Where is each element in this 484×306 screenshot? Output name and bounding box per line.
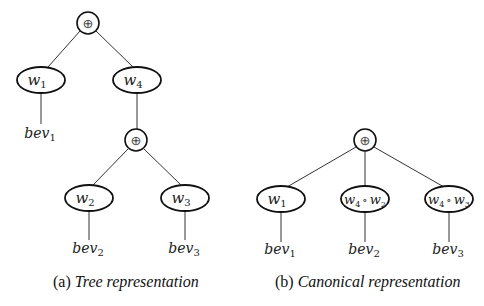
compose-icon: ∘ <box>362 194 367 207</box>
oplus-root-node: ⊕ <box>77 12 99 34</box>
edge-root-w1 <box>287 147 356 187</box>
canonical-representation: ⊕ w1 w4∘w2 w4∘w3 bev1 bev2 bev3 <box>257 129 473 259</box>
oplus-icon: ⊕ <box>360 133 371 148</box>
weight-node-w1: w1 <box>17 67 65 93</box>
weight-node-w4-compose-w3: w4∘w3 <box>425 186 473 212</box>
caption-a: (a) Tree representation <box>53 273 199 291</box>
leaf-bev1: bev1 <box>264 241 296 259</box>
leaf-bev2: bev2 <box>72 240 104 258</box>
edge-root-w4 <box>96 31 133 67</box>
edge-root-w4w3 <box>374 147 444 187</box>
leaf-bev3: bev3 <box>432 241 464 259</box>
edge-oplus-w3 <box>144 149 181 185</box>
compose-icon: ∘ <box>446 194 451 207</box>
oplus-inner-node: ⊕ <box>125 129 147 151</box>
svg-text:w4∘w2: w4∘w2 <box>344 192 386 209</box>
oplus-icon: ⊕ <box>83 16 94 31</box>
weight-node-w4: w4 <box>113 67 161 93</box>
leaf-bev2: bev2 <box>348 241 380 259</box>
weight-node-w2: w2 <box>65 185 113 211</box>
diagram-canvas: ⊕ w1 w4 bev1 ⊕ w2 w3 bev2 <box>0 0 484 306</box>
leaf-bev1: bev1 <box>24 125 56 143</box>
caption-a-text: Tree representation <box>75 273 199 290</box>
oplus-icon: ⊕ <box>131 133 142 148</box>
edge-root-w1 <box>48 31 80 67</box>
tree-representation: ⊕ w1 w4 bev1 ⊕ w2 w3 bev2 <box>17 12 209 258</box>
caption-b-prefix: (b) <box>275 273 294 290</box>
caption-a-prefix: (a) <box>53 273 71 290</box>
edge-oplus-w2 <box>93 149 128 185</box>
oplus-root-node: ⊕ <box>354 129 376 151</box>
caption-b-text: Canonical representation <box>298 273 461 290</box>
leaf-bev3: bev3 <box>168 240 200 258</box>
svg-text:w4∘w3: w4∘w3 <box>428 192 470 209</box>
weight-node-w4-compose-w2: w4∘w2 <box>341 186 389 212</box>
caption-b: (b) Canonical representation <box>275 273 460 291</box>
weight-node-w1: w1 <box>257 186 305 212</box>
weight-node-w3: w3 <box>161 185 209 211</box>
